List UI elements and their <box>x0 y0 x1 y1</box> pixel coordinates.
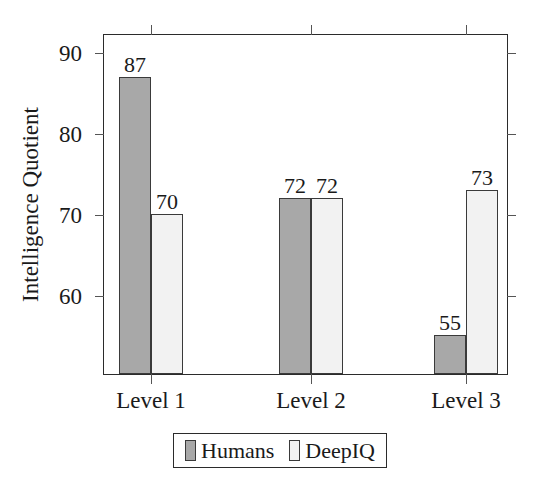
y-tick-label-90: 90 <box>59 41 82 67</box>
legend-swatch-deepiq-icon <box>289 440 300 461</box>
plot-area: 90 80 70 60 Level 1 Level 2 <box>103 34 508 375</box>
bar-value-level-3-humans: 55 <box>439 312 461 334</box>
bar-value-level-1-humans: 87 <box>124 54 146 76</box>
bar-value-level-2-humans: 72 <box>284 175 306 197</box>
bar-level-3-humans[interactable]: 55 <box>434 335 466 374</box>
x-tick-mark-top-level-1 <box>151 25 152 35</box>
x-tick-mark-level-1 <box>151 374 152 384</box>
x-tick-mark-top-level-2 <box>311 25 312 35</box>
legend-label-humans: Humans <box>201 440 274 462</box>
y-axis-title: Intelligence Quotient <box>14 34 48 375</box>
x-tick-label-level-2: Level 2 <box>276 388 346 414</box>
y-tick-label-80: 80 <box>59 122 82 148</box>
chart-legend: Humans DeepIQ <box>173 433 387 468</box>
bar-level-1-deepiq[interactable]: 70 <box>151 214 183 374</box>
x-tick-mark-top-level-3 <box>466 25 467 35</box>
y-tick-label-60: 60 <box>59 284 82 310</box>
bar-chart-figure: Intelligence Quotient 90 80 70 60 <box>0 0 537 490</box>
y-tick-label-70: 70 <box>59 203 82 229</box>
bar-value-level-3-deepiq: 73 <box>471 167 493 189</box>
x-tick-label-level-3: Level 3 <box>431 388 501 414</box>
bar-level-2-deepiq[interactable]: 72 <box>311 198 343 374</box>
bar-value-level-1-deepiq: 70 <box>156 191 178 213</box>
legend-entry-humans[interactable]: Humans <box>185 440 274 462</box>
legend-label-deepiq: DeepIQ <box>305 440 375 462</box>
x-tick-mark-level-3 <box>466 374 467 384</box>
x-tick-mark-level-2 <box>311 374 312 384</box>
bar-level-3-deepiq[interactable]: 73 <box>466 190 498 374</box>
bar-level-1-humans[interactable]: 87 <box>119 77 151 374</box>
legend-swatch-humans-icon <box>185 440 196 461</box>
x-tick-label-level-1: Level 1 <box>116 388 186 414</box>
legend-entry-deepiq[interactable]: DeepIQ <box>289 440 375 462</box>
bar-value-level-2-deepiq: 72 <box>316 175 338 197</box>
bar-level-2-humans[interactable]: 72 <box>279 198 311 374</box>
